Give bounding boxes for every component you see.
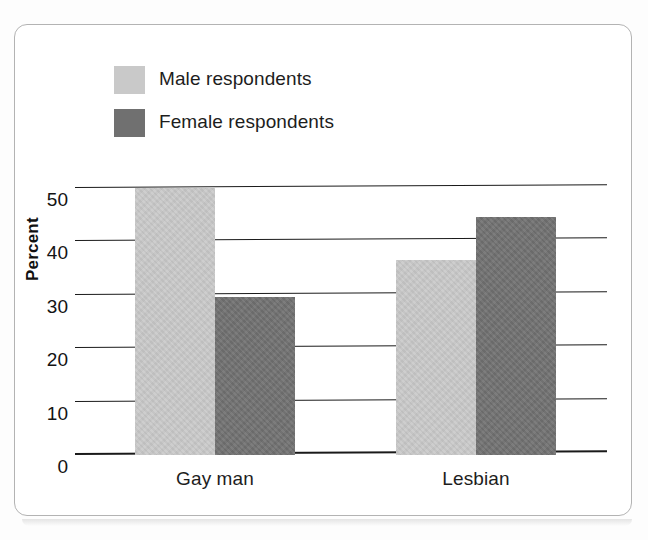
bar-gay-man-male-respondents [135,188,215,455]
legend-label-female: Female respondents [159,105,334,139]
bar-lesbian-male-respondents [396,260,476,455]
x-tick-label-gay-man: Gay man [135,468,295,490]
plot-area: 01020304050 [75,161,607,455]
x-tick-label-lesbian: Lesbian [396,468,556,490]
y-axis-title: Percent [23,255,43,281]
legend-item-female: Female respondents [114,105,444,148]
y-tick-label-40: 40 [47,242,68,264]
y-tick-label-20: 20 [47,349,68,371]
legend-item-male: Male respondents [114,62,444,105]
bar-gay-man-female-respondents [215,297,295,455]
y-tick-label-30: 30 [47,296,68,318]
chart-legend: Male respondents Female respondents [114,62,444,148]
legend-label-male: Male respondents [159,62,312,96]
legend-swatch-female [114,109,145,137]
y-tick-label-10: 10 [47,403,68,425]
legend-swatch-male [114,66,145,94]
bar-lesbian-female-respondents [476,217,556,455]
figure-container: Male respondents Female respondents Perc… [0,0,648,540]
y-tick-label-50: 50 [47,189,68,211]
figure-frame-shadow [22,519,632,526]
y-tick-label-0: 0 [57,456,68,478]
